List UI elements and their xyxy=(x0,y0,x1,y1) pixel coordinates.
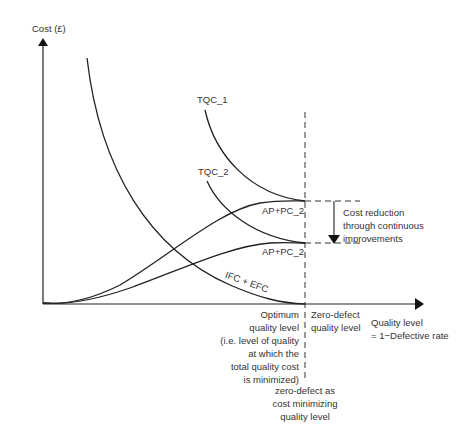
optimum-line-4: at which the xyxy=(200,347,299,360)
tqc1-curve xyxy=(205,110,305,201)
y-axis xyxy=(38,38,48,304)
ap-pc-lower-label: AP+PC_2 xyxy=(262,245,304,258)
x-axis-label-line-1: Quality level xyxy=(371,316,449,329)
ifc-efc-curve xyxy=(87,58,305,304)
optimum-quality-annotation: Optimum quality level (i.e. level of qua… xyxy=(200,308,299,386)
cost-reduction-line-2: through continuous xyxy=(343,219,424,232)
cost-reduction-arrow-icon xyxy=(328,201,340,244)
zero-defect-cost-annotation: zero-defect as cost minimizing quality l… xyxy=(255,384,355,423)
tqc2-label: TQC_2 xyxy=(198,165,229,178)
optimum-line-1: Optimum xyxy=(200,308,299,321)
cost-reduction-annotation: Cost reduction through continuous improv… xyxy=(343,206,424,245)
optimum-line-3: (i.e. level of quality xyxy=(200,334,299,347)
y-axis-label: Cost (£) xyxy=(32,22,66,35)
y-axis-arrow-icon xyxy=(38,38,48,46)
zero-defect-line-1: Zero-defect xyxy=(311,308,361,321)
x-axis-label-line-2: = 1−Defective rate xyxy=(371,329,449,342)
optimum-line-5: total quality cost xyxy=(200,360,299,373)
zero-defect-annotation: Zero-defect quality level xyxy=(311,308,361,334)
ap-pc-upper-label: AP+PC_2 xyxy=(262,204,304,217)
zero-defect-line-2: quality level xyxy=(311,321,361,334)
zero-cost-line-1: zero-defect as xyxy=(255,384,355,397)
tqc1-label: TQC_1 xyxy=(197,93,228,106)
cost-reduction-line-1: Cost reduction xyxy=(343,206,424,219)
cost-reduction-line-3: improvements xyxy=(343,232,424,245)
optimum-line-2: quality level xyxy=(200,321,299,334)
zero-cost-line-2: cost minimizing xyxy=(255,397,355,410)
zero-cost-line-3: quality level xyxy=(255,410,355,423)
x-axis-arrow-icon xyxy=(415,298,424,310)
x-axis-label: Quality level = 1−Defective rate xyxy=(371,316,449,342)
